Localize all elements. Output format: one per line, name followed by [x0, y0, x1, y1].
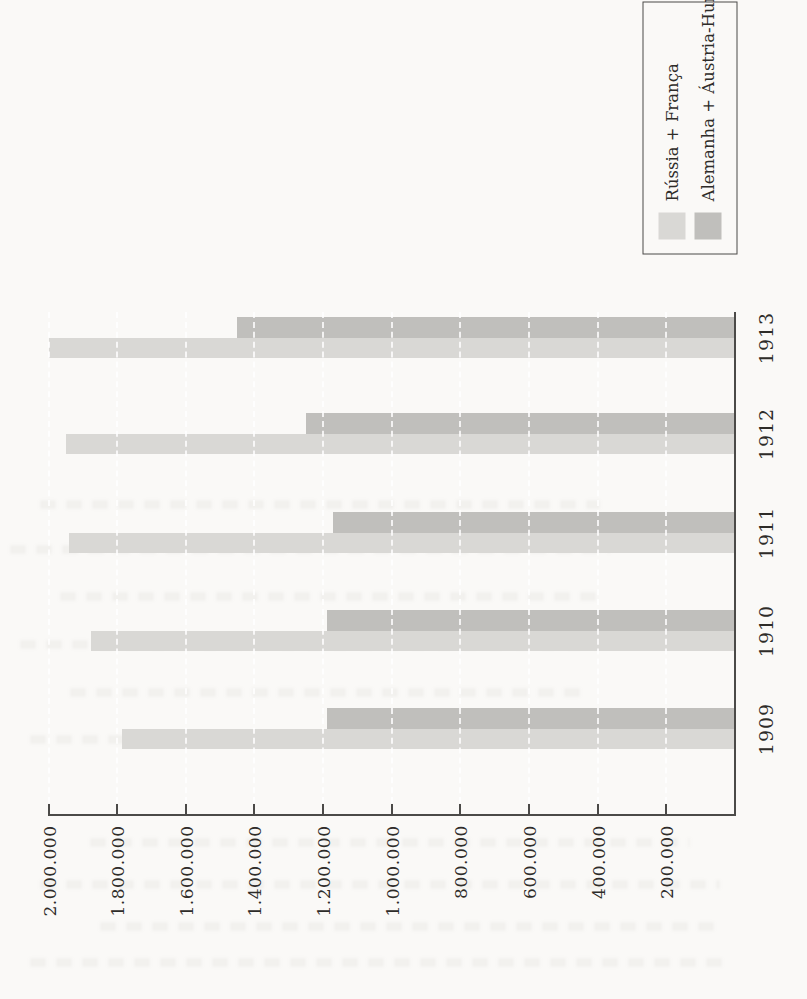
- value-tick-label: 1.400.000: [245, 825, 265, 916]
- scan-ghost-text: [70, 688, 590, 697]
- gridline: [459, 312, 461, 813]
- value-tick-label: 1.200.000: [314, 825, 334, 916]
- bar-alemanha-ustria-hungria-1909: [327, 708, 735, 729]
- legend-label-alemanha-austria-hungria: Alemanha + Áustria-Hungria: [699, 0, 718, 202]
- legend: Rússia + França Alemanha + Áustria-Hungr…: [643, 2, 738, 255]
- year-label: 1913: [755, 311, 777, 363]
- bar-r-ssia-fran-a-1909: [122, 729, 735, 750]
- gridline: [322, 312, 324, 813]
- page: Rússia + França Alemanha + Áustria-Hungr…: [0, 0, 807, 999]
- legend-entry-alemanha-austria-hungria: Alemanha + Áustria-Hungria: [695, 3, 722, 240]
- value-tick-label: 600.000: [520, 825, 540, 899]
- legend-label-russia-franca: Rússia + França: [663, 63, 682, 201]
- value-tick-label: 1.000.000: [383, 825, 403, 916]
- gridline: [116, 312, 118, 813]
- scan-ghost-text: [100, 922, 720, 931]
- legend-entry-russia-franca: Rússia + França: [659, 3, 686, 240]
- gridline: [597, 312, 599, 813]
- value-tick-label: 400.000: [589, 825, 609, 899]
- gridline: [253, 312, 255, 813]
- value-tick-label: 800.000: [451, 825, 471, 899]
- bar-r-ssia-fran-a-1911: [69, 533, 735, 554]
- gridline: [185, 312, 187, 813]
- legend-swatch-alemanha-austria-hungria: [695, 213, 722, 240]
- scan-ghost-text: [30, 958, 730, 967]
- value-axis-line: [48, 814, 737, 816]
- year-label: 1911: [755, 506, 777, 558]
- gridline: [665, 312, 667, 813]
- scan-ghost-text: [60, 592, 600, 601]
- category-baseline: [734, 312, 736, 815]
- year-label: 1910: [755, 604, 777, 656]
- bar-alemanha-ustria-hungria-1910: [327, 610, 735, 631]
- scan-ghost-text: [40, 880, 720, 889]
- scan-ghost-text: [40, 500, 600, 509]
- rotated-bar-chart: Rússia + França Alemanha + Áustria-Hungr…: [0, 0, 807, 999]
- bar-alemanha-ustria-hungria-1911: [333, 512, 735, 533]
- bar-alemanha-ustria-hungria-1913: [237, 317, 735, 338]
- value-tick-label: 1.800.000: [108, 825, 128, 916]
- gridline: [528, 312, 530, 813]
- year-label: 1909: [755, 702, 777, 754]
- year-label: 1912: [755, 407, 777, 459]
- gridline: [48, 312, 50, 813]
- value-tick-label: 2.000.000: [40, 825, 60, 916]
- bar-alemanha-ustria-hungria-1912: [306, 413, 735, 434]
- bar-r-ssia-fran-a-1910: [91, 631, 735, 652]
- legend-swatch-russia-franca: [659, 213, 686, 240]
- gridline: [391, 312, 393, 813]
- bar-r-ssia-fran-a-1912: [66, 434, 735, 455]
- value-tick-label: 200.000: [657, 825, 677, 899]
- value-tick-label: 1.600.000: [177, 825, 197, 916]
